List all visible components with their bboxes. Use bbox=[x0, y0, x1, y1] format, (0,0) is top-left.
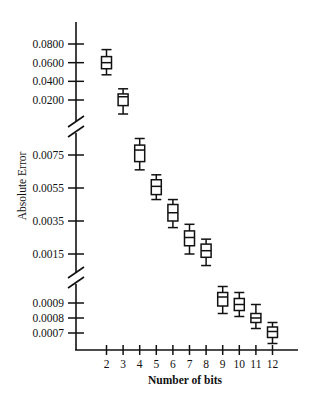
iqr-box bbox=[135, 145, 145, 162]
boxes bbox=[102, 50, 278, 344]
y-tick-label: 0.0075 bbox=[32, 149, 64, 161]
y-tick-label: 0.0007 bbox=[32, 327, 64, 339]
x-axis-title: Number of bits bbox=[148, 374, 222, 386]
iqr-box bbox=[185, 231, 195, 246]
y-tick-label: 0.0200 bbox=[32, 94, 64, 106]
y-tick-label: 0.0600 bbox=[32, 57, 64, 69]
x-tick-label: 3 bbox=[120, 358, 126, 370]
x-tick-label: 6 bbox=[170, 358, 176, 370]
iqr-box bbox=[151, 180, 161, 195]
y-axis-title: Absolute Error bbox=[16, 152, 28, 221]
y-tick-label: 0.0400 bbox=[32, 75, 64, 87]
x-tick-label: 11 bbox=[250, 358, 261, 370]
y-tick-label: 0.0008 bbox=[32, 312, 64, 324]
x-tick-label: 5 bbox=[153, 358, 159, 370]
box-9 bbox=[218, 287, 228, 314]
y-tick-label: 0.0055 bbox=[32, 182, 64, 194]
box-12 bbox=[268, 323, 278, 344]
box-8 bbox=[201, 239, 211, 265]
box-plot-chart: 0.08000.06000.04000.02000.00750.00550.00… bbox=[0, 0, 310, 408]
box-10 bbox=[234, 293, 244, 317]
y-tick-label: 0.0009 bbox=[32, 297, 64, 309]
y-tick-label: 0.0800 bbox=[32, 38, 64, 50]
box-11 bbox=[251, 305, 261, 329]
y-tick-label: 0.0015 bbox=[32, 248, 64, 260]
y-tick-label: 0.0035 bbox=[32, 215, 64, 227]
x-tick-label: 4 bbox=[137, 358, 143, 370]
box-3 bbox=[118, 89, 128, 114]
iqr-box bbox=[218, 293, 228, 307]
x-tick-label: 9 bbox=[220, 358, 226, 370]
x-tick-label: 7 bbox=[187, 358, 193, 370]
iqr-box bbox=[118, 94, 128, 106]
x-tick-label: 12 bbox=[267, 358, 279, 370]
box-4 bbox=[135, 139, 145, 170]
x-tick-label: 10 bbox=[234, 358, 246, 370]
axes bbox=[68, 22, 298, 350]
x-tick-label: 2 bbox=[104, 358, 110, 370]
x-tick-label: 8 bbox=[203, 358, 209, 370]
box-5 bbox=[151, 175, 161, 200]
x-ticks: 23456789101112 bbox=[104, 345, 279, 370]
box-2 bbox=[102, 50, 112, 75]
box-7 bbox=[185, 224, 195, 254]
box-6 bbox=[168, 200, 178, 228]
